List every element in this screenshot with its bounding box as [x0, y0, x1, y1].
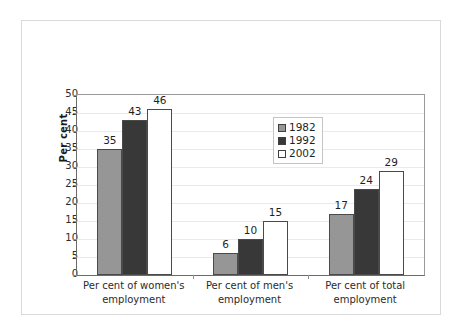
- bar-slot: 46: [147, 95, 172, 275]
- bar[interactable]: [238, 239, 263, 275]
- bar-value-label: 15: [256, 207, 295, 218]
- legend-item[interactable]: 2002: [278, 147, 316, 160]
- legend-item[interactable]: 1992: [278, 134, 316, 147]
- legend-label: 2002: [289, 148, 316, 159]
- category-label: Per cent of women'semployment: [76, 279, 192, 307]
- bar-value-label: 29: [372, 157, 411, 168]
- y-tick-label: 25: [44, 179, 78, 189]
- legend-swatch-icon: [278, 124, 286, 132]
- x-axis-category-labels: Per cent of women'semploymentPer cent of…: [76, 279, 424, 313]
- legend-item[interactable]: 1982: [278, 121, 316, 134]
- y-tick-label: 20: [44, 197, 78, 207]
- bar[interactable]: [147, 109, 172, 275]
- category-label: Per cent of men'semployment: [192, 279, 308, 307]
- y-tick-label: 50: [44, 89, 78, 99]
- y-tick-label: 35: [44, 143, 78, 153]
- bar-slot: 24: [354, 95, 379, 275]
- y-axis-tick-labels: 05101520253035404550: [44, 87, 78, 267]
- bar-slot: 43: [122, 95, 147, 275]
- bar-group: 172429: [308, 95, 424, 275]
- legend-label: 1982: [289, 122, 316, 133]
- bar-value-label: 46: [140, 95, 179, 106]
- category-label-line: employment: [307, 293, 423, 307]
- category-label: Per cent of totalemployment: [307, 279, 423, 307]
- y-tick-label: 5: [44, 251, 78, 261]
- y-tick-label: 40: [44, 125, 78, 135]
- y-tick-mark: [73, 275, 77, 276]
- y-tick-label: 30: [44, 161, 78, 171]
- bar-slot: 35: [97, 95, 122, 275]
- bar[interactable]: [122, 120, 147, 275]
- bar-slot: 29: [379, 95, 404, 275]
- y-tick-label: 0: [44, 269, 78, 279]
- bar-slot: 6: [213, 95, 238, 275]
- category-label-line: Per cent of total: [307, 279, 423, 293]
- bar[interactable]: [354, 189, 379, 275]
- y-tick-label: 10: [44, 233, 78, 243]
- bar[interactable]: [379, 171, 404, 275]
- bar-slot: 10: [238, 95, 263, 275]
- category-label-line: Per cent of women's: [76, 279, 192, 293]
- bar[interactable]: [213, 253, 238, 275]
- y-tick-label: 15: [44, 215, 78, 225]
- bar[interactable]: [263, 221, 288, 275]
- bar[interactable]: [329, 214, 354, 275]
- legend-label: 1992: [289, 135, 316, 146]
- category-label-line: employment: [76, 293, 192, 307]
- plot-area: 35434661015172429: [76, 94, 425, 276]
- bar-group: 354346: [77, 95, 193, 275]
- y-tick-label: 45: [44, 107, 78, 117]
- bar-chart-figure: Per cent 05101520253035404550 3543466101…: [21, 20, 441, 315]
- chart-legend: 198219922002: [273, 117, 323, 164]
- bar[interactable]: [97, 149, 122, 275]
- category-label-line: employment: [192, 293, 308, 307]
- legend-swatch-icon: [278, 137, 286, 145]
- category-label-line: Per cent of men's: [192, 279, 308, 293]
- legend-swatch-icon: [278, 150, 286, 158]
